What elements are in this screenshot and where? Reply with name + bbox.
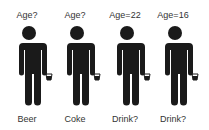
person-with-cup-icon [3,24,55,106]
top-label: Age=16 [143,10,203,20]
bottom-label: Drink? [143,114,203,124]
person-with-cup-icon [149,24,201,106]
person-with-cup-icon [101,24,153,106]
person-4: Age=16 Drink? [149,0,201,130]
person-with-cup-icon [51,24,103,106]
